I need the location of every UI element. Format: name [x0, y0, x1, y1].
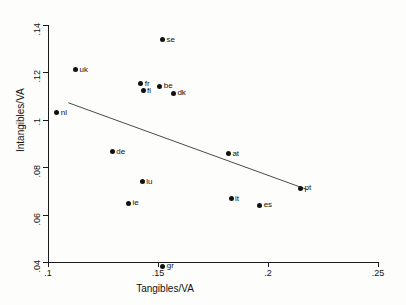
- x-tick-mark: [48, 262, 49, 267]
- data-point[interactable]: [141, 88, 146, 93]
- data-point[interactable]: [110, 149, 115, 154]
- x-axis-line: [48, 262, 378, 263]
- y-tick-mark: [43, 215, 48, 216]
- data-point-label: nl: [61, 108, 67, 117]
- data-point[interactable]: [298, 186, 303, 191]
- y-tick-mark: [43, 167, 48, 168]
- data-point-label: lu: [146, 177, 152, 186]
- x-axis-title: Tangibles/VA: [136, 283, 194, 294]
- x-tick-label: .2: [264, 268, 272, 278]
- data-point-label: dk: [177, 88, 185, 97]
- data-point[interactable]: [257, 203, 262, 208]
- x-tick-label: .15: [152, 268, 165, 278]
- x-tick-label: .25: [372, 268, 385, 278]
- y-axis-title: Intangibles/VA: [15, 88, 26, 152]
- data-point-label: es: [264, 200, 272, 209]
- data-point-label: de: [116, 147, 125, 156]
- y-axis-line: [48, 25, 49, 262]
- y-tick-label: .12: [32, 70, 42, 83]
- data-point[interactable]: [160, 264, 165, 269]
- data-point[interactable]: [226, 151, 231, 156]
- data-point[interactable]: [73, 67, 78, 72]
- data-point-label: se: [166, 35, 174, 44]
- data-point-label: be: [164, 81, 173, 90]
- data-point-label: fi: [147, 86, 151, 95]
- y-tick-label: .1: [32, 118, 42, 126]
- y-tick-label: .04: [32, 260, 42, 273]
- y-tick-mark: [43, 120, 48, 121]
- data-point-label: pt: [305, 183, 312, 192]
- data-point[interactable]: [160, 37, 165, 42]
- y-tick-mark: [43, 72, 48, 73]
- scatter-plot-figure: .04.06.08.1.12.14 .1.15.2.25 seukfrbefid…: [0, 0, 406, 305]
- data-point[interactable]: [229, 196, 234, 201]
- data-point[interactable]: [54, 110, 59, 115]
- regression-line: [48, 25, 378, 262]
- y-tick-label: .08: [32, 165, 42, 178]
- data-point-label: gr: [167, 261, 174, 270]
- data-point[interactable]: [138, 81, 143, 86]
- y-tick-mark: [43, 25, 48, 26]
- y-tick-label: .14: [32, 23, 42, 36]
- data-point-label: at: [232, 149, 239, 158]
- x-tick-mark: [268, 262, 269, 267]
- data-point-label: ie: [133, 198, 139, 207]
- x-tick-label: .1: [44, 268, 52, 278]
- data-point[interactable]: [126, 201, 131, 206]
- x-tick-mark: [378, 262, 379, 267]
- plot-area: .04.06.08.1.12.14 .1.15.2.25 seukfrbefid…: [48, 25, 378, 262]
- y-tick-label: .06: [32, 213, 42, 226]
- data-point[interactable]: [157, 84, 162, 89]
- x-tick-mark: [158, 262, 159, 267]
- data-point[interactable]: [140, 179, 145, 184]
- data-point[interactable]: [171, 91, 176, 96]
- data-point-label: it: [235, 194, 239, 203]
- data-point-label: uk: [80, 65, 88, 74]
